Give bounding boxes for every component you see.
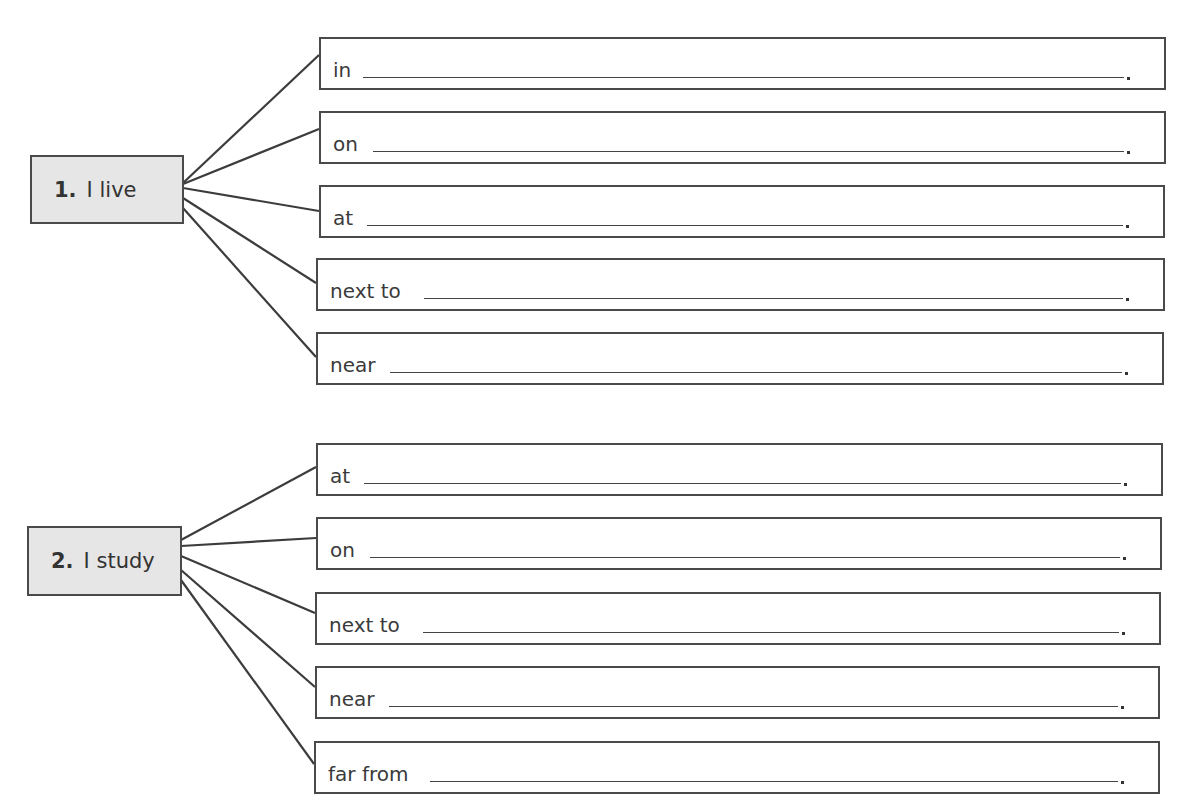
exercise-1-blank-near[interactable]: near (316, 332, 1164, 385)
exercise-2-stem: 2. I study (27, 526, 182, 596)
exercise-2-blank-near[interactable]: near (315, 666, 1160, 719)
answer-line[interactable] (363, 77, 1124, 78)
answer-line[interactable] (430, 781, 1118, 782)
exercise-2-blank-far-from[interactable]: far from (314, 741, 1160, 794)
blank-prompt: far from (328, 762, 408, 786)
blank-prompt: in (333, 58, 351, 82)
blank-prompt: at (330, 464, 350, 488)
exercise-2-blank-on[interactable]: on (316, 517, 1162, 570)
exercise-2-blank-next-to[interactable]: next to (315, 592, 1161, 645)
blank-prompt: next to (330, 279, 401, 303)
exercise-1-blank-next-to[interactable]: next to (316, 258, 1165, 311)
period (1123, 557, 1126, 560)
period (1121, 706, 1124, 709)
period (1126, 298, 1129, 301)
period (1127, 77, 1130, 80)
blank-prompt: near (330, 353, 375, 377)
answer-line[interactable] (373, 151, 1124, 152)
answer-line[interactable] (390, 372, 1122, 373)
stem-text: I study (84, 549, 155, 573)
exercise-1-blank-in[interactable]: in (319, 37, 1166, 90)
period (1121, 781, 1124, 784)
blank-prompt: near (329, 687, 374, 711)
exercise-1-blank-at[interactable]: at (319, 185, 1165, 238)
blank-prompt: at (333, 206, 353, 230)
period (1127, 151, 1130, 154)
answer-line[interactable] (423, 632, 1119, 633)
period (1125, 372, 1128, 375)
exercise-number: 1. (54, 178, 77, 202)
blank-prompt: next to (329, 613, 400, 637)
period (1124, 483, 1127, 486)
period (1122, 632, 1125, 635)
answer-line[interactable] (364, 483, 1121, 484)
stem-text: I live (87, 178, 137, 202)
exercise-1-blank-on[interactable]: on (319, 111, 1166, 164)
exercise-number: 2. (51, 549, 74, 573)
blank-prompt: on (330, 538, 355, 562)
answer-line[interactable] (370, 557, 1120, 558)
blank-prompt: on (333, 132, 358, 156)
answer-line[interactable] (424, 298, 1123, 299)
answer-line[interactable] (367, 225, 1123, 226)
period (1126, 225, 1129, 228)
answer-line[interactable] (389, 706, 1118, 707)
exercise-2-blank-at[interactable]: at (316, 443, 1163, 496)
exercise-1-stem: 1. I live (30, 155, 184, 224)
